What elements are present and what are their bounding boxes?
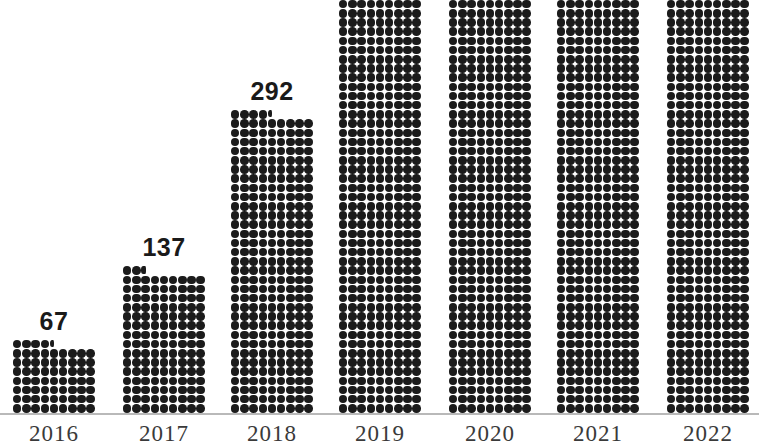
dot-row: [339, 193, 422, 202]
dot: [339, 156, 348, 165]
dot: [731, 73, 740, 82]
dot: [630, 294, 639, 303]
dot: [375, 27, 384, 36]
dot: [59, 349, 68, 358]
dot: [621, 55, 630, 64]
dot: [593, 220, 602, 229]
dot: [566, 174, 575, 183]
dot-row: [339, 147, 422, 156]
dot-row: [339, 183, 422, 192]
dot: [575, 128, 584, 137]
dot: [412, 404, 421, 413]
dot: [740, 294, 749, 303]
dot: [304, 349, 313, 358]
dot-row: [449, 395, 532, 404]
dot: [339, 349, 348, 358]
dot: [566, 9, 575, 18]
dot: [458, 73, 467, 82]
dot: [348, 46, 357, 55]
dot: [584, 0, 593, 9]
dot: [557, 9, 566, 18]
dot: [575, 376, 584, 385]
dot: [621, 119, 630, 128]
dot: [731, 9, 740, 18]
dot: [449, 202, 458, 211]
dot: [603, 64, 612, 73]
dot: [123, 358, 132, 367]
dot: [267, 147, 276, 156]
dot: [575, 275, 584, 284]
dot: [485, 137, 494, 146]
dot-row: [667, 9, 750, 18]
dot: [40, 385, 49, 394]
dot: [412, 0, 421, 9]
dot: [366, 0, 375, 9]
dot: [476, 330, 485, 339]
dot: [485, 101, 494, 110]
dot-row: [667, 193, 750, 202]
dot: [286, 238, 295, 247]
dot: [458, 0, 467, 9]
dot: [132, 367, 141, 376]
dot: [267, 376, 276, 385]
dot: [694, 46, 703, 55]
dot: [458, 9, 467, 18]
dot: [703, 312, 712, 321]
dot: [731, 91, 740, 100]
dot: [40, 349, 49, 358]
dot: [495, 340, 504, 349]
dot: [485, 376, 494, 385]
dot-row: [13, 385, 96, 394]
dot: [286, 330, 295, 339]
dot: [593, 27, 602, 36]
dot: [123, 395, 132, 404]
dot: [593, 156, 602, 165]
dot: [277, 330, 286, 339]
dot: [621, 101, 630, 110]
dot: [522, 275, 531, 284]
dot-row: [231, 165, 314, 174]
dot: [348, 238, 357, 247]
dot: [566, 18, 575, 27]
dot: [231, 303, 240, 312]
dot: [495, 275, 504, 284]
dot: [694, 101, 703, 110]
x-axis-tick-labels: 2016201720182019202020212022: [0, 415, 759, 446]
dot: [467, 404, 476, 413]
dot: [575, 9, 584, 18]
dot: [740, 18, 749, 27]
dot: [476, 321, 485, 330]
dot: [694, 248, 703, 257]
dot: [449, 174, 458, 183]
dot-row: [449, 128, 532, 137]
dot-row: [231, 275, 314, 284]
dot: [566, 238, 575, 247]
dot: [667, 303, 676, 312]
dot: [458, 211, 467, 220]
dot-row: [667, 266, 750, 275]
dot: [348, 404, 357, 413]
dot: [31, 367, 40, 376]
dot: [366, 330, 375, 339]
dot: [676, 211, 685, 220]
dot: [575, 0, 584, 9]
dot-row: [449, 312, 532, 321]
dot: [575, 284, 584, 293]
dot: [348, 340, 357, 349]
dot: [412, 73, 421, 82]
dot: [612, 46, 621, 55]
dot: [240, 183, 249, 192]
dot: [612, 147, 621, 156]
dot: [304, 174, 313, 183]
x-tick-label-2022: 2022: [658, 421, 758, 446]
dot: [258, 340, 267, 349]
dot: [522, 128, 531, 137]
dot: [740, 202, 749, 211]
dot: [676, 119, 685, 128]
dot: [403, 183, 412, 192]
dot: [740, 395, 749, 404]
dot: [412, 257, 421, 266]
dot: [566, 220, 575, 229]
dot: [295, 137, 304, 146]
dot: [22, 385, 31, 394]
